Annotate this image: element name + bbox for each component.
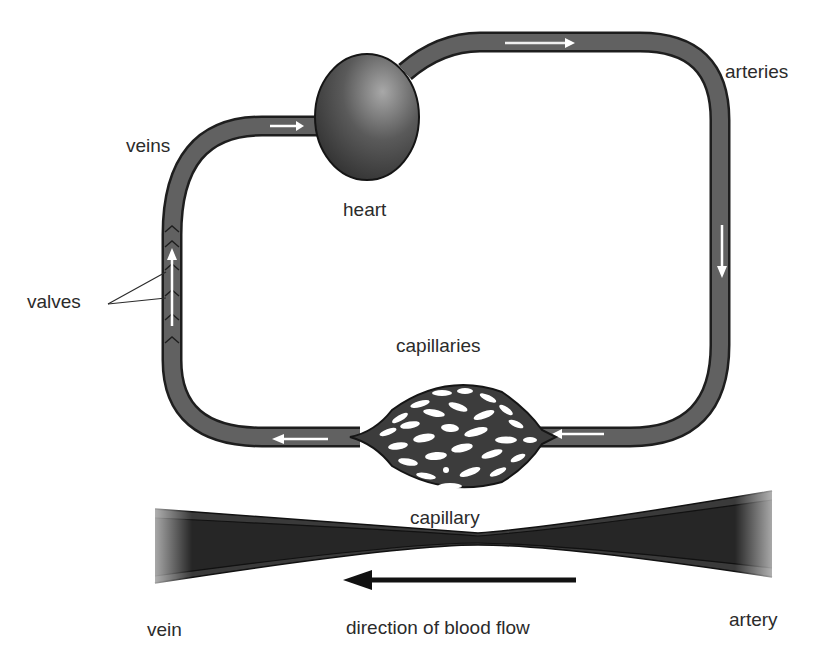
label-capillary: capillary: [410, 508, 480, 527]
flow-arrows: [167, 38, 727, 444]
label-arteries: arteries: [725, 62, 788, 81]
label-heart: heart: [343, 200, 386, 219]
label-veins: veins: [126, 136, 170, 155]
valves-pointer-lines: [108, 272, 166, 304]
label-capillaries: capillaries: [396, 336, 480, 355]
capillary-bed: [350, 385, 556, 489]
vessel-cross-section: [155, 488, 772, 588]
label-valves: valves: [27, 292, 81, 311]
heart-shape: [315, 54, 419, 180]
label-vein: vein: [147, 620, 182, 639]
label-direction-of-blood-flow: direction of blood flow: [346, 618, 530, 637]
circulation-diagram: [0, 0, 827, 660]
vessel-loop: [172, 42, 720, 437]
label-artery: artery: [729, 610, 778, 629]
